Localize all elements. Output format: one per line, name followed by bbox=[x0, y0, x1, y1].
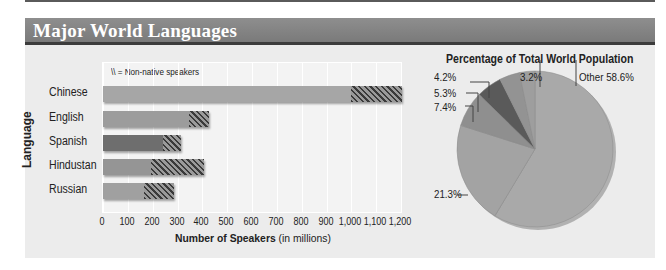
bar-chart-plot: \\ = Non-native speakers bbox=[102, 62, 402, 213]
category-label: Russian bbox=[49, 182, 87, 196]
x-axis-label-unit: (in millions) bbox=[276, 232, 331, 244]
pie-label-5-3: 5.3% bbox=[434, 87, 456, 99]
bar-non-native-segment bbox=[163, 135, 182, 151]
x-axis-label: Number of Speakers (in millions) bbox=[175, 232, 331, 244]
bar-native-segment bbox=[103, 111, 189, 127]
bar-chinese bbox=[103, 86, 402, 102]
bar-hindustan bbox=[103, 159, 204, 175]
hatch-legend: \\ = Non-native speakers bbox=[111, 67, 199, 77]
bar-non-native-segment bbox=[351, 86, 402, 102]
bar-non-native-segment bbox=[144, 183, 174, 199]
bar-native-segment bbox=[103, 86, 351, 102]
category-label: Hindustan bbox=[49, 158, 97, 172]
category-label: English bbox=[49, 110, 84, 124]
x-tick-label: 100 bbox=[119, 215, 134, 227]
x-tick-label: 600 bbox=[243, 215, 258, 227]
x-tick-label: 700 bbox=[268, 215, 283, 227]
page-title: Major World Languages bbox=[33, 20, 237, 42]
bar-non-native-segment bbox=[189, 111, 209, 127]
bar-english bbox=[103, 111, 209, 127]
pie-label-4-2: 4.2% bbox=[434, 71, 456, 83]
category-label: Chinese bbox=[49, 85, 88, 99]
y-axis-label: Language bbox=[20, 111, 34, 168]
x-tick-label: 800 bbox=[293, 215, 308, 227]
x-tick-label: 1,100 bbox=[364, 215, 387, 227]
bar-native-segment bbox=[103, 135, 163, 151]
pie-label-21-3: 21.3% bbox=[434, 188, 462, 200]
x-tick-label: 1,200 bbox=[389, 215, 412, 227]
title-banner: Major World Languages bbox=[25, 18, 655, 45]
x-axis-label-main: Number of Speakers bbox=[175, 232, 276, 244]
x-tick-label: 300 bbox=[169, 215, 184, 227]
x-tick-label: 1,000 bbox=[339, 215, 362, 227]
category-label: Spanish bbox=[49, 134, 87, 148]
bar-native-segment bbox=[103, 159, 151, 175]
bar-native-segment bbox=[103, 183, 144, 199]
bar-non-native-segment bbox=[151, 159, 203, 175]
pie-label-7-4: 7.4% bbox=[434, 101, 456, 113]
pie-label-3-2: 3.2% bbox=[520, 71, 542, 83]
x-tick-label: 0 bbox=[99, 215, 104, 227]
x-tick-label: 200 bbox=[144, 215, 159, 227]
x-tick-label: 400 bbox=[194, 215, 209, 227]
x-tick-label: 500 bbox=[219, 215, 234, 227]
bar-spanish bbox=[103, 135, 181, 151]
pie-label-other: Other 58.6% bbox=[579, 71, 634, 83]
x-tick-label: 900 bbox=[318, 215, 333, 227]
bar-russian bbox=[103, 183, 174, 199]
top-rule bbox=[25, 0, 655, 2]
